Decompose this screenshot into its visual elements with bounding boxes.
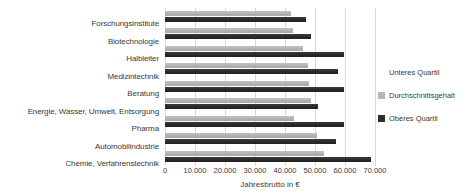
- bar-durchschnittsgehalt: [165, 11, 291, 16]
- bar-oberes-quartil: [165, 157, 371, 162]
- x-axis-title: Jahresbrutto in €: [165, 180, 375, 190]
- legend-item[interactable]: Unteres Quartil: [378, 61, 469, 84]
- legend-item[interactable]: Durchschnittsgehalt: [378, 84, 469, 107]
- category-label: Beratung: [0, 89, 162, 98]
- bar-group: [165, 27, 375, 41]
- category-label: Biotechnologie: [0, 37, 162, 46]
- bar-durchschnittsgehalt: [165, 98, 311, 103]
- bar-oberes-quartil: [165, 139, 336, 144]
- bar-oberes-quartil: [165, 87, 344, 92]
- category-label: Pharma: [0, 124, 162, 133]
- salary-bar-chart: ForschungsinstituteBiotechnologieHalblei…: [0, 0, 469, 195]
- category-axis: ForschungsinstituteBiotechnologieHalblei…: [0, 18, 162, 166]
- bar-durchschnittsgehalt: [165, 133, 317, 138]
- x-tick-label: 40.000: [274, 166, 297, 176]
- gridline-70000: [375, 8, 376, 166]
- plot-area: [165, 8, 375, 166]
- bar-oberes-quartil: [165, 17, 306, 22]
- category-label: Automobilindustrie: [0, 142, 162, 151]
- bar-oberes-quartil: [165, 122, 344, 127]
- legend-swatch-icon: [378, 92, 385, 99]
- bar-group: [165, 97, 375, 111]
- bar-durchschnittsgehalt: [165, 151, 324, 156]
- category-label: Halbleiter: [0, 54, 162, 63]
- bar-durchschnittsgehalt: [165, 81, 309, 86]
- x-tick-label: 60.000: [334, 166, 357, 176]
- bar-durchschnittsgehalt: [165, 63, 308, 68]
- legend-swatch-icon: [378, 69, 385, 76]
- bar-group: [165, 62, 375, 76]
- x-tick-label: 10.000: [184, 166, 207, 176]
- legend-swatch-icon: [378, 115, 385, 122]
- value-axis-ticks: 010.00020.00030.00040.00050.00060.00070.…: [0, 166, 469, 178]
- legend-label: Durchschnittsgehalt: [389, 91, 455, 100]
- bar-group: [165, 150, 375, 164]
- bar-group: [165, 80, 375, 94]
- bar-oberes-quartil: [165, 69, 338, 74]
- bar-durchschnittsgehalt: [165, 46, 303, 51]
- bar-durchschnittsgehalt: [165, 116, 294, 121]
- legend-item[interactable]: Oberes Quartil: [378, 107, 469, 130]
- bar-oberes-quartil: [165, 52, 344, 57]
- category-label: Energie, Wasser, Umwelt, Entsorgung: [0, 107, 162, 116]
- x-tick-label: 50.000: [304, 166, 327, 176]
- x-tick-label: 70.000: [364, 166, 387, 176]
- bar-durchschnittsgehalt: [165, 28, 293, 33]
- legend-label: Unteres Quartil: [389, 68, 439, 77]
- bar-group: [165, 10, 375, 24]
- bar-group: [165, 132, 375, 146]
- bar-oberes-quartil: [165, 104, 318, 109]
- bar-oberes-quartil: [165, 34, 311, 39]
- chart-legend: Unteres QuartilDurchschnittsgehaltOberes…: [378, 61, 469, 130]
- x-tick-label: 30.000: [244, 166, 267, 176]
- x-tick-label: 20.000: [214, 166, 237, 176]
- bar-group: [165, 45, 375, 59]
- category-label: Medizintechnik: [0, 72, 162, 81]
- category-label: Forschungsinstitute: [0, 19, 162, 28]
- x-tick-label: 0: [163, 166, 167, 176]
- legend-label: Oberes Quartil: [389, 114, 438, 123]
- bar-group: [165, 115, 375, 129]
